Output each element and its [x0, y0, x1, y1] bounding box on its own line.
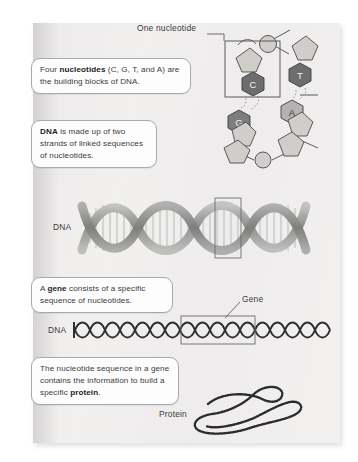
one-nucleotide-leader-line	[207, 34, 224, 41]
gene-highlight-box	[181, 316, 255, 344]
strand-wave-bottom	[75, 323, 330, 338]
nucleotide-diagram: C G T A	[224, 30, 318, 168]
sugar-pentagon-left-1	[236, 48, 262, 72]
dna-double-helix	[82, 198, 306, 258]
label-protein: Protein	[159, 409, 187, 419]
phosphate-circle-left-1	[260, 36, 277, 53]
phosphate-circle-bottom	[255, 152, 271, 168]
label-one-nucleotide: One nucleotide	[137, 23, 196, 33]
callout-protein-text-2: .	[98, 388, 100, 397]
base-hexagon-C: C	[242, 72, 264, 96]
callout-nucleotides-bold: nucleotides	[59, 65, 105, 74]
base-hexagon-T: T	[289, 63, 311, 87]
label-dna-helix: DNA	[53, 222, 71, 232]
callout-nucleotides: Four nucleotides (C, G, T, and A) are th…	[31, 58, 191, 94]
callout-protein-text-1: The nucleotide sequence in a gene contai…	[40, 364, 169, 397]
callout-dna-strands: DNA is made up of two strands of linked …	[31, 120, 157, 168]
callout-gene-bold: gene	[47, 284, 66, 293]
callout-dna-strands-bold: DNA	[40, 127, 58, 136]
label-dna-strand: DNA	[48, 325, 66, 335]
base-letter-C: C	[250, 79, 257, 90]
dna-compressed-strand	[74, 316, 330, 344]
callout-protein: The nucleotide sequence in a gene contai…	[31, 357, 179, 405]
callout-protein-bold: protein	[70, 388, 98, 397]
protein-beaded-chain	[195, 387, 301, 434]
callout-gene: A gene consists of a specific sequence o…	[31, 277, 173, 313]
strand-wave-top	[75, 323, 330, 338]
protein-structure	[195, 387, 301, 434]
label-gene: Gene	[242, 294, 263, 304]
sugar-pentagon-right-1	[292, 36, 318, 60]
base-letter-T: T	[297, 70, 303, 81]
callout-nucleotides-text-1: Four	[40, 65, 59, 74]
